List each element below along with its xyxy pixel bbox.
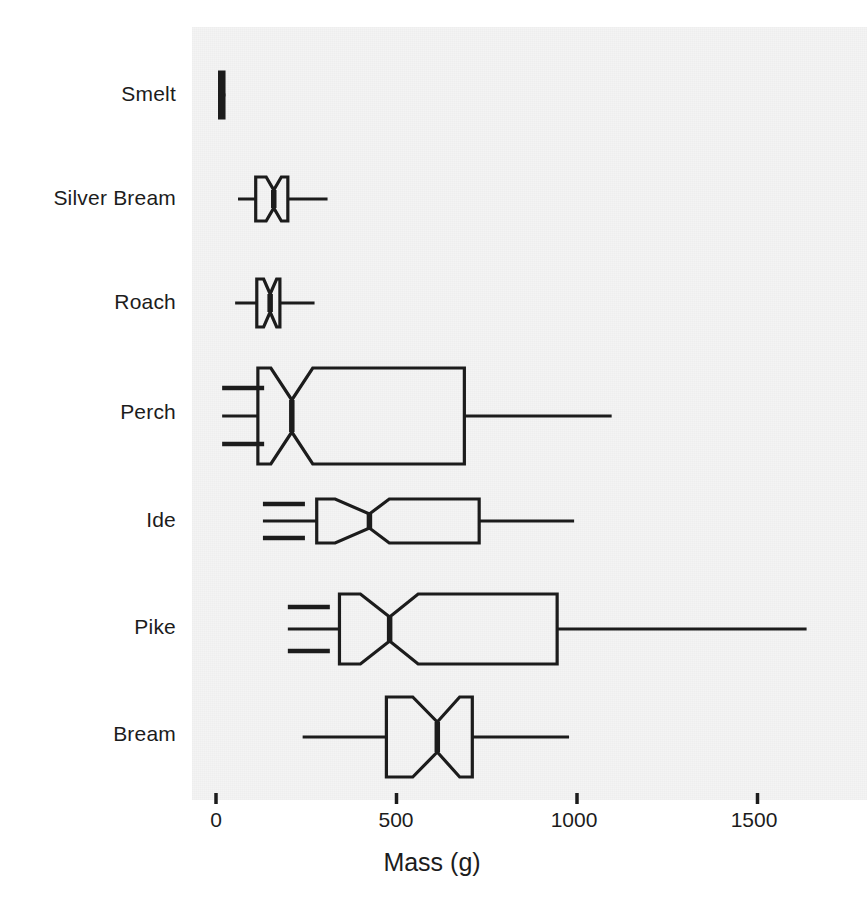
boxplot-box-roach: [235, 279, 314, 327]
boxplot-box-ide: [263, 499, 574, 543]
boxplot-box-pike: [288, 594, 807, 664]
box-outline: [258, 368, 464, 464]
x-axis-title: Mass (g): [292, 848, 572, 877]
boxplot-canvas: [0, 0, 867, 906]
x-tick-label-0: 0: [176, 808, 256, 832]
boxplot-box-bream: [303, 697, 569, 777]
boxplot-box-perch: [222, 368, 612, 464]
boxplot-box-silver-bream: [238, 177, 328, 221]
x-tick-label-1000: 1000: [534, 808, 614, 832]
x-axis-ticks: [216, 793, 758, 804]
box-outline: [339, 594, 557, 664]
box-group-layer: [218, 72, 806, 777]
x-tick-label-1500: 1500: [714, 808, 794, 832]
box-outline: [317, 499, 479, 543]
boxplot-figure: Smelt Silver Bream Roach Perch Ide Pike …: [0, 0, 867, 906]
boxplot-box-smelt: [218, 72, 225, 118]
x-tick-label-500: 500: [356, 808, 436, 832]
box-outline: [386, 697, 472, 777]
